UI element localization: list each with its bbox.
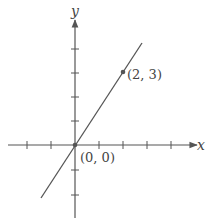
point-label: (2, 3): [127, 67, 162, 82]
x-axis-label: x: [197, 137, 205, 153]
origin-label: (0, 0): [80, 150, 115, 165]
point-origin: [73, 143, 78, 148]
coordinate-plane: y x (0, 0) (2, 3): [0, 0, 207, 220]
y-axis-label: y: [70, 3, 80, 19]
point-2-3: [121, 70, 126, 75]
